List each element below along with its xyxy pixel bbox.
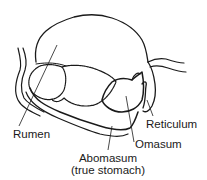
- omasum-leader-line: [126, 96, 134, 142]
- reticulum-outline: [143, 62, 155, 112]
- abomasum-leader-line: [108, 126, 112, 150]
- omasum-label: Omasum: [135, 138, 182, 150]
- rumen-leader-line: [19, 45, 57, 126]
- esophagus-lower: [150, 66, 186, 72]
- rumen-label: Rumen: [13, 128, 50, 140]
- abomasum-outline: [30, 88, 138, 130]
- stomach-diagram: Rumen Reticulum Omasum Abomasum (true st…: [0, 0, 207, 180]
- rumen-middle-sac: [52, 65, 116, 106]
- reticulum-leader-line: [147, 100, 153, 116]
- omasum-outline: [102, 72, 144, 112]
- abomasum-note-label: (true stomach): [70, 164, 146, 176]
- rumen-ventral-sac: [29, 65, 66, 100]
- esophagus-upper: [148, 59, 184, 63]
- reticulum-label: Reticulum: [146, 118, 197, 130]
- abomasum-label: Abomasum: [72, 152, 144, 164]
